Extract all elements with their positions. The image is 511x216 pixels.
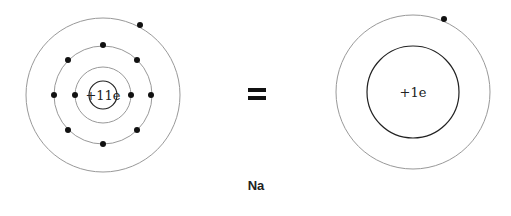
right-atom: +1e <box>336 15 490 169</box>
electron <box>100 141 106 147</box>
electron <box>128 92 134 98</box>
equals-sign <box>248 88 266 100</box>
electron <box>148 92 154 98</box>
electron <box>72 92 78 98</box>
electron <box>134 127 140 133</box>
valence-electron <box>137 22 143 28</box>
electron <box>134 57 140 63</box>
electron <box>100 42 106 48</box>
nucleus-label: +11e <box>85 88 120 103</box>
core-label: +1e <box>400 85 427 100</box>
element-label: Na <box>241 178 271 193</box>
valence-electron <box>441 16 447 22</box>
electron <box>51 92 57 98</box>
electron <box>65 127 71 133</box>
left-atom: +11e <box>26 18 180 172</box>
electron <box>65 57 71 63</box>
